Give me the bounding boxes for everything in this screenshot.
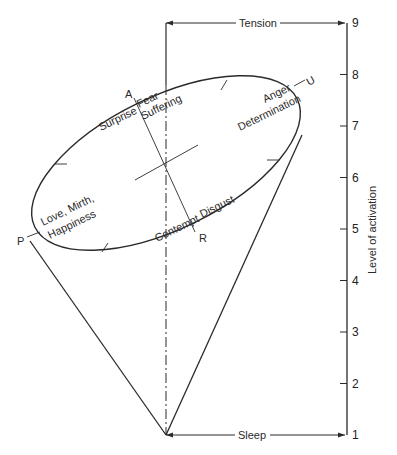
tick-label-5: 5: [352, 222, 359, 236]
cone-left-edge: [30, 241, 166, 435]
tick-label-4: 4: [352, 274, 359, 288]
cone-right-edge: [166, 135, 302, 435]
arrow-left-icon: [166, 21, 173, 26]
axis-ticks: [340, 75, 347, 384]
point-R: R: [199, 232, 207, 244]
point-U: U: [304, 73, 317, 87]
point-P: P: [17, 235, 24, 247]
arrow-right-icon: [338, 433, 345, 438]
tick-label-9: 9: [352, 16, 359, 30]
tick-label-1: 1: [352, 428, 359, 442]
label-surprise: Surprise: [97, 104, 139, 133]
arrow-right-icon: [338, 21, 345, 26]
point-A: A: [125, 88, 133, 100]
axis-title: Level of activation: [366, 186, 378, 274]
tick-label-6: 6: [352, 171, 359, 185]
label-disgust: Disgust: [198, 193, 236, 220]
sleep-label: Sleep: [238, 429, 266, 441]
emotion-cone-diagram: 1 2 3 4 5 6 7 8 9 Level of activation Te…: [0, 0, 397, 455]
tick-label-3: 3: [352, 325, 359, 339]
tension-label: Tension: [239, 17, 277, 29]
tick-label-8: 8: [352, 68, 359, 82]
tick-label-7: 7: [352, 119, 359, 133]
cross-axis: [135, 145, 198, 180]
tick-label-2: 2: [352, 377, 359, 391]
